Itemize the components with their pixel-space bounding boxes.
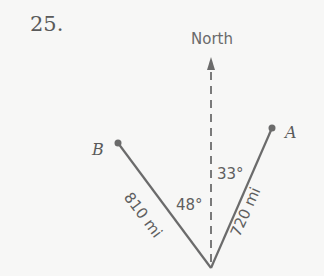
problem-number: 25. xyxy=(30,12,63,36)
north-arrow-icon xyxy=(207,57,215,70)
point-b-label: B xyxy=(91,140,104,159)
point-a-dot xyxy=(269,125,276,132)
angle-label-a: 33° xyxy=(217,165,244,183)
north-label: North xyxy=(191,30,233,48)
angle-label-b: 48° xyxy=(176,196,203,214)
point-a-label: A xyxy=(283,123,297,142)
distance-label-a: 720 mi xyxy=(227,184,265,239)
point-b-dot xyxy=(115,140,122,147)
bearing-diagram: 25. North B A 810 mi 720 mi 48° 33° xyxy=(0,0,324,276)
